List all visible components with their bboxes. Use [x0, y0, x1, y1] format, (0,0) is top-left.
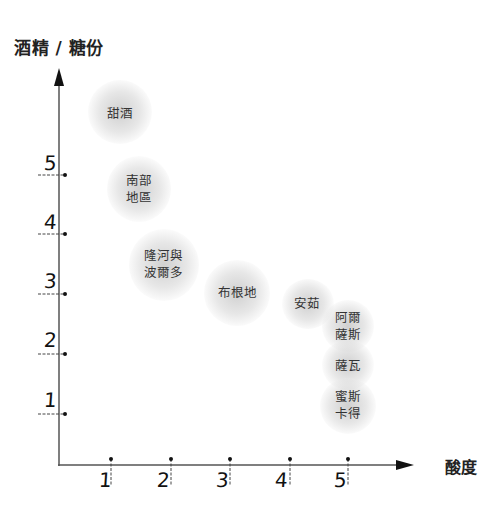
y-tick-3: 3: [43, 269, 57, 293]
x-tick-5: 5: [333, 468, 347, 492]
point-label-rhone-bordeaux: 隆河與 波爾多: [144, 247, 183, 281]
x-tick-1: 1: [98, 468, 112, 492]
y-tick-1: 1: [43, 388, 57, 412]
chart-axes: [0, 0, 501, 516]
point-label-savoie: 薩瓦: [335, 357, 361, 374]
point-label-sweet-wine: 甜酒: [107, 105, 133, 122]
point-label-alsace: 阿爾 薩斯: [335, 309, 361, 343]
x-tick-2: 2: [156, 468, 170, 492]
x-tick-3: 3: [215, 468, 229, 492]
y-tick-2: 2: [43, 328, 57, 352]
y-tick-4: 4: [43, 210, 57, 234]
point-label-muscadet: 蜜斯 卡得: [335, 388, 361, 422]
point-label-anjou: 安茹: [294, 295, 320, 312]
y-tick-5: 5: [43, 151, 57, 175]
point-label-burgundy: 布根地: [218, 284, 257, 301]
x-tick-4: 4: [274, 468, 288, 492]
point-label-south: 南部 地區: [126, 172, 152, 206]
